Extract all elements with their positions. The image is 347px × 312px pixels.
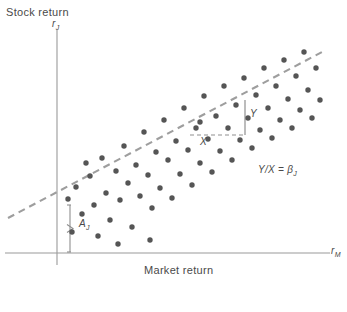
scatter-point — [113, 168, 118, 173]
scatter-point — [117, 197, 122, 202]
scatter-point — [169, 195, 174, 200]
x-axis-symbol: rM — [331, 245, 341, 258]
scatter-point — [213, 113, 218, 118]
scatter-point — [91, 202, 96, 207]
scatter-point — [145, 172, 150, 177]
run-label: X — [200, 136, 207, 147]
scatter-point — [189, 182, 194, 187]
scatter-point — [121, 143, 126, 148]
scatter-point — [217, 148, 222, 153]
scatter-point — [253, 92, 258, 97]
scatter-point — [79, 211, 84, 216]
scatter-point — [209, 169, 214, 174]
scatter-point — [229, 157, 234, 162]
scatter-point — [103, 190, 108, 195]
scatter-point — [137, 193, 142, 198]
scatter-point — [261, 65, 266, 70]
scatter-point — [173, 138, 178, 143]
scatter-point — [115, 241, 120, 246]
scatter-point — [141, 129, 146, 134]
scatter-point — [107, 217, 112, 222]
scatter-point — [265, 105, 270, 110]
scatter-point — [241, 75, 246, 80]
scatter-point — [149, 205, 154, 210]
scatter-point — [293, 73, 298, 78]
scatter-point — [157, 185, 162, 190]
intercept-bracket — [67, 205, 73, 252]
scatter-point — [133, 162, 138, 167]
scatter-point — [281, 57, 286, 62]
scatter-point — [197, 160, 202, 165]
scatter-point — [129, 224, 134, 229]
scatter-point — [83, 160, 88, 165]
scatter-point — [273, 83, 278, 88]
regression-line-dashed — [8, 52, 322, 218]
scatter-point — [313, 65, 318, 70]
scatter-point — [95, 233, 100, 238]
scatter-point — [197, 119, 202, 124]
scatter-point — [125, 180, 130, 185]
scatter-point — [181, 105, 186, 110]
slope-formula-subscript: J — [293, 170, 297, 177]
slope-formula-base: Y/X = β — [258, 164, 293, 175]
intercept-label-base: A — [79, 218, 86, 229]
scatter-point — [249, 145, 254, 150]
scatter-point — [147, 237, 152, 242]
scatter-point — [165, 157, 170, 162]
scatter-point — [221, 83, 226, 88]
intercept-label-subscript: J — [86, 224, 90, 231]
y-axis-symbol-subscript: J — [56, 24, 60, 31]
scatter-points — [65, 49, 322, 246]
axes-group — [5, 30, 330, 265]
scatter-point — [257, 127, 262, 132]
scatter-point — [153, 149, 158, 154]
scatter-point — [73, 184, 78, 189]
scatter-point — [317, 97, 322, 102]
y-axis-symbol: rJ — [52, 18, 59, 31]
scatter-point — [269, 135, 274, 140]
slope-formula: Y/X = βJ — [258, 164, 297, 177]
scatter-point — [177, 171, 182, 176]
scatter-point — [99, 155, 104, 160]
scatter-point — [301, 49, 306, 54]
scatter-point — [185, 147, 190, 152]
beta-regression-figure: Stock return rJ Market return rM Y X AJ … — [0, 0, 347, 312]
rise-label: Y — [250, 108, 257, 119]
scatter-point — [65, 196, 70, 201]
y-axis-title: Stock return — [6, 6, 69, 18]
scatter-point — [87, 173, 92, 178]
regression-line — [8, 52, 322, 218]
scatter-point — [233, 102, 238, 107]
scatter-point — [69, 229, 74, 234]
scatter-point — [161, 117, 166, 122]
scatter-point — [193, 125, 198, 130]
scatter-point — [277, 117, 282, 122]
scatter-point — [225, 125, 230, 130]
intercept-label: AJ — [79, 218, 90, 231]
scatter-point — [309, 115, 314, 120]
scatter-point — [305, 87, 310, 92]
scatter-point — [289, 125, 294, 130]
scatter-point — [297, 107, 302, 112]
scatter-point — [237, 137, 242, 142]
x-axis-title: Market return — [144, 264, 213, 276]
x-axis-symbol-subscript: M — [335, 251, 341, 258]
scatter-point — [201, 93, 206, 98]
scatter-point — [285, 96, 290, 101]
